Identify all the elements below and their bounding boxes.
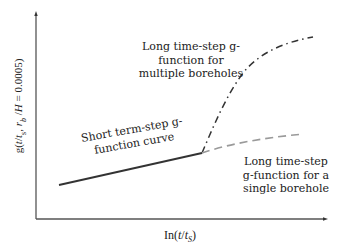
annotation-line: single borehole bbox=[236, 182, 336, 196]
annotation-line: function for bbox=[132, 54, 250, 68]
annotation-line: Long time-step bbox=[236, 155, 336, 169]
y-axis-arrow-icon bbox=[34, 11, 37, 16]
x-axis-arrow-icon bbox=[323, 217, 328, 220]
y-label-part: = 0.0005) bbox=[12, 59, 24, 105]
annotation-multiple-boreholes: Long time-step g- function for multiple … bbox=[132, 40, 250, 81]
y-label-part: t bbox=[12, 141, 24, 144]
y-label-part: r bbox=[12, 122, 24, 126]
y-label-part: g( bbox=[12, 144, 24, 153]
x-label-part: ) bbox=[192, 228, 196, 242]
y-label-part: t bbox=[12, 135, 24, 138]
y-label-part: b bbox=[19, 118, 28, 122]
x-axis-label: In(t/tS) bbox=[164, 228, 196, 244]
y-label-part: / bbox=[12, 112, 24, 118]
y-axis-label: g(t/ts, rb /H = 0.0005) bbox=[12, 59, 27, 154]
annotation-line: Long time-step g- bbox=[132, 40, 250, 54]
annotation-line: g-function for a bbox=[236, 169, 336, 183]
y-label-part: H bbox=[12, 104, 24, 112]
x-label-part: In( bbox=[164, 228, 178, 242]
annotation-single-borehole: Long time-step g-function for a single b… bbox=[236, 155, 336, 196]
annotation-line: multiple boreholes bbox=[132, 67, 250, 81]
y-label-part: / bbox=[12, 138, 24, 141]
y-label-part: , bbox=[12, 126, 24, 132]
long-term-single-borehole-curve bbox=[202, 134, 304, 153]
